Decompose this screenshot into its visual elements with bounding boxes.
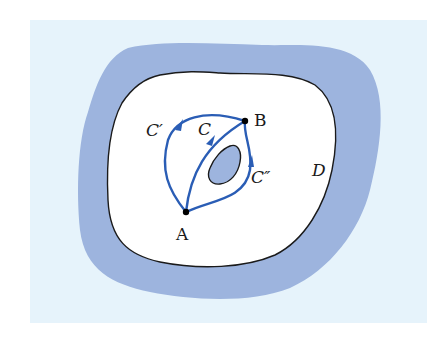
label-c-double-prime: C″ [251, 167, 271, 187]
label-a: A [175, 224, 189, 244]
label-c-prime: C′ [146, 120, 163, 140]
domain-diagram: C′ C B C″ D A [0, 0, 439, 344]
point-a-dot [183, 209, 189, 215]
point-b-dot [242, 118, 248, 124]
label-c: C [198, 119, 211, 139]
diagram-canvas: C′ C B C″ D A [0, 0, 439, 344]
label-b: B [254, 110, 267, 130]
label-d: D [311, 160, 326, 180]
